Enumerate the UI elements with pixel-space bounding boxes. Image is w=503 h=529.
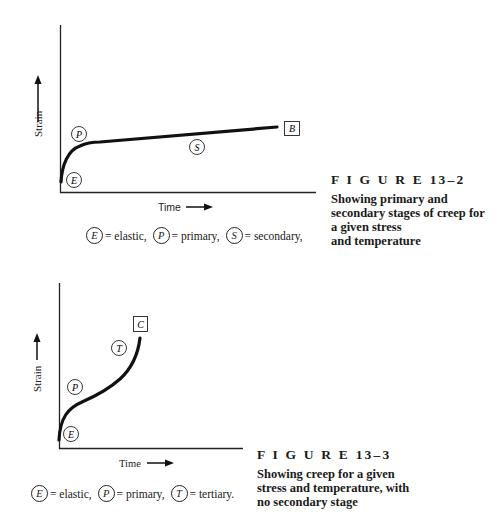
legend-symbol-t: T bbox=[171, 485, 188, 502]
marker-s: S bbox=[195, 142, 200, 153]
x-axis-label: Time bbox=[158, 201, 181, 213]
marker-p: P bbox=[75, 129, 82, 140]
legend-symbol-e: E bbox=[86, 227, 103, 244]
legend-symbol-p: P bbox=[153, 227, 170, 244]
y-axis-label: Strain bbox=[32, 110, 44, 137]
legend-figure-13-3: E = elastic, P = primary, T = tertiary. bbox=[27, 485, 236, 502]
marker-e-2: E bbox=[67, 429, 74, 440]
legend-text-tertiary: = tertiary. bbox=[190, 488, 235, 500]
y-axis-label-2: Strain bbox=[31, 365, 43, 392]
figure-title-2: F I G U R E 13–3 bbox=[257, 447, 409, 463]
x-axis-label-2: Time bbox=[119, 458, 141, 469]
caption-line: a given stress bbox=[331, 220, 485, 234]
creep-curve-primary-secondary bbox=[61, 127, 277, 182]
marker-e: E bbox=[70, 175, 77, 186]
legend-figure-13-2: E = elastic, P = primary, S = secondary, bbox=[82, 227, 305, 244]
legend-symbol-p-2: P bbox=[98, 485, 115, 502]
legend-text-secondary: = secondary, bbox=[245, 230, 303, 242]
marker-p-2: P bbox=[71, 382, 78, 393]
caption-line: Showing creep for a given bbox=[257, 467, 409, 481]
caption-figure-13-3: F I G U R E 13–3 Showing creep for a giv… bbox=[257, 447, 409, 509]
figure-13-2-diagram: Strain P E S B Time Strain P E T C Time bbox=[0, 0, 503, 529]
caption-line: stress and temperature, with bbox=[257, 481, 409, 495]
marker-b: B bbox=[289, 123, 295, 134]
marker-t: T bbox=[116, 343, 123, 354]
legend-text-primary-2: = primary, bbox=[117, 488, 165, 500]
caption-line: and temperature bbox=[331, 234, 485, 248]
legend-text-primary: = primary, bbox=[172, 230, 220, 242]
strain-arrowhead-icon bbox=[35, 75, 42, 84]
caption-line: no secondary stage bbox=[257, 495, 409, 509]
caption-figure-13-2: F I G U R E 13–2 Showing primary and sec… bbox=[331, 172, 485, 248]
caption-line: secondary stages of creep for bbox=[331, 206, 485, 220]
figure-description-2: Showing creep for a given stress and tem… bbox=[257, 467, 409, 509]
figure-title: F I G U R E 13–2 bbox=[331, 172, 485, 188]
time-arrowhead-icon bbox=[204, 204, 213, 211]
legend-symbol-e-2: E bbox=[31, 485, 48, 502]
marker-c: C bbox=[137, 319, 144, 330]
time-arrowhead-icon-2 bbox=[165, 460, 174, 467]
strain-arrowhead-icon-2 bbox=[34, 333, 41, 342]
caption-line: Showing primary and bbox=[331, 192, 485, 206]
figure-description: Showing primary and secondary stages of … bbox=[331, 192, 485, 248]
legend-text-elastic-2: = elastic, bbox=[50, 488, 92, 500]
legend-symbol-s: S bbox=[226, 227, 243, 244]
legend-text-elastic: = elastic, bbox=[105, 230, 147, 242]
